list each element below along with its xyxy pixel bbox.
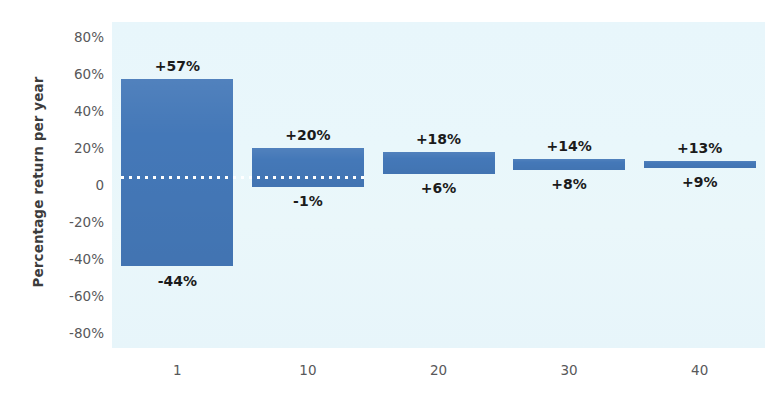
bar-chart: Percentage return per year 80%60%40%20%0… — [0, 0, 777, 408]
bar-high-value-label: +13% — [677, 140, 722, 156]
bar-shading — [644, 161, 756, 168]
bar-shading — [121, 79, 233, 266]
y-axis-tick-label: 40% — [46, 103, 104, 119]
y-axis-tick-labels: 80%60%40%20%0-20%-40%-60%-80% — [46, 0, 104, 408]
y-axis-tick-label: -40% — [46, 251, 104, 267]
bar — [644, 161, 756, 168]
bar — [252, 148, 364, 187]
y-axis-tick-label: -60% — [46, 288, 104, 304]
y-axis-tick-label: 60% — [46, 66, 104, 82]
x-axis-tick-label: 1 — [173, 362, 182, 378]
bar-shading — [252, 148, 364, 187]
bar-high-value-label: +14% — [546, 138, 591, 154]
x-axis-tick-label: 40 — [691, 362, 708, 378]
bar-high-value-label: +57% — [155, 58, 200, 74]
plot-area: +57%-44%+20%-1%+18%+6%+14%+8%+13%+9% — [112, 22, 765, 348]
bar-low-value-label: +6% — [421, 180, 457, 196]
bar-low-value-label: +9% — [682, 174, 718, 190]
bar-low-value-label: -1% — [293, 193, 323, 209]
average-return-dotted-line — [121, 176, 364, 179]
bar — [383, 152, 495, 174]
x-axis-tick-label: 20 — [430, 362, 447, 378]
x-axis-tick-label: 10 — [299, 362, 316, 378]
bar — [121, 79, 233, 266]
y-axis-tick-label: 0 — [46, 177, 104, 193]
x-axis-tick-label: 30 — [561, 362, 578, 378]
y-axis-tick-label: 20% — [46, 140, 104, 156]
bar-high-value-label: +20% — [285, 127, 330, 143]
y-axis-title: Percentage return per year — [30, 52, 46, 312]
bar-high-value-label: +18% — [416, 131, 461, 147]
bar-shading — [383, 152, 495, 174]
y-axis-tick-label: -20% — [46, 214, 104, 230]
bar-low-value-label: -44% — [158, 273, 197, 289]
x-axis-tick-labels: 110203040 — [112, 362, 765, 386]
y-axis-tick-label: 80% — [46, 29, 104, 45]
bar-shading — [513, 159, 625, 170]
bar-low-value-label: +8% — [551, 176, 587, 192]
y-axis-tick-label: -80% — [46, 325, 104, 341]
bar — [513, 159, 625, 170]
